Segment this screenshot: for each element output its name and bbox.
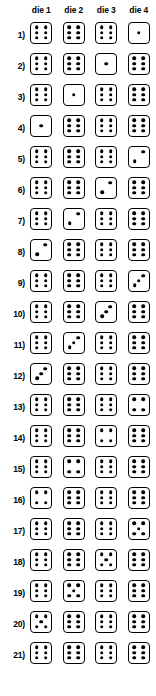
- die-pip: [133, 217, 137, 221]
- die-pip: [100, 651, 104, 655]
- die-face-6: [30, 425, 52, 447]
- die-pip: [44, 305, 48, 309]
- die-pip: [68, 367, 72, 371]
- die-pip: [100, 31, 104, 35]
- die-pip: [100, 124, 104, 128]
- dice-roll-table: die 1 die 2 die 3 die 4 1)2)3)4)5)6)7)8)…: [0, 0, 155, 670]
- die-pip: [141, 465, 145, 469]
- die-pip: [109, 274, 113, 278]
- row-number-label: 15): [0, 453, 25, 484]
- die-pip: [109, 346, 113, 350]
- die-pip: [35, 346, 39, 350]
- die-pip: [68, 243, 72, 247]
- die-cell: [90, 267, 123, 298]
- die-pip: [133, 439, 137, 443]
- table-row: 8): [0, 236, 155, 267]
- die-pip: [137, 527, 141, 531]
- die-pip: [109, 372, 113, 376]
- table-body: 1)2)3)4)5)6)7)8)9)10)11)12)13)14)15)16)1…: [0, 19, 155, 670]
- die-pip: [109, 119, 113, 123]
- die-pip: [133, 563, 137, 567]
- row-number-label: 3): [0, 81, 25, 112]
- die-face-5: [63, 580, 85, 602]
- die-pip: [109, 88, 113, 92]
- die-pip: [133, 160, 137, 164]
- die-pip: [100, 398, 104, 402]
- die-pip: [44, 31, 48, 35]
- table-header: die 1 die 2 die 3 die 4: [0, 0, 155, 19]
- die-pip: [68, 36, 72, 40]
- die-face-6: [128, 487, 150, 509]
- die-pip: [39, 620, 43, 624]
- row-number-label: 8): [0, 236, 25, 267]
- die-pip: [68, 57, 72, 61]
- die-pip: [141, 367, 145, 371]
- die-pip: [35, 470, 39, 474]
- die-pip: [109, 656, 113, 660]
- die-pip: [44, 470, 48, 474]
- die-pip: [133, 465, 137, 469]
- die-pip: [141, 336, 145, 340]
- die-pip: [35, 186, 39, 190]
- die-pip: [76, 181, 80, 185]
- die-pip: [68, 403, 72, 407]
- die-pip: [76, 615, 80, 619]
- die-pip: [141, 651, 145, 655]
- die-pip: [35, 563, 39, 567]
- die-pip: [76, 310, 80, 314]
- die-cell: [123, 422, 156, 453]
- die-pip: [100, 284, 104, 288]
- die-face-1: [30, 115, 52, 137]
- die-pip: [35, 491, 39, 495]
- row-number-label: 5): [0, 143, 25, 174]
- die-pip: [141, 625, 145, 629]
- die-cell: [25, 329, 58, 360]
- die-pip: [68, 222, 72, 226]
- table-row: 20): [0, 608, 155, 639]
- die-pip: [68, 434, 72, 438]
- die-pip: [44, 310, 48, 314]
- die-pip: [35, 62, 39, 66]
- die-pip: [35, 594, 39, 598]
- die-pip: [44, 532, 48, 536]
- die-pip: [141, 57, 145, 61]
- die-cell: [123, 143, 156, 174]
- die-cell: [58, 298, 91, 329]
- table-row: 17): [0, 515, 155, 546]
- die-pip: [100, 93, 104, 97]
- die-pip: [76, 57, 80, 61]
- row-number-label: 11): [0, 329, 25, 360]
- row-number-label: 18): [0, 546, 25, 577]
- die-pip: [76, 403, 80, 407]
- die-cell: [25, 577, 58, 608]
- table-row: 6): [0, 174, 155, 205]
- die-pip: [141, 460, 145, 464]
- die-pip: [141, 67, 145, 71]
- die-pip: [76, 522, 80, 526]
- die-pip: [44, 150, 48, 154]
- die-cell: [90, 50, 123, 81]
- die-pip: [109, 553, 113, 557]
- die-pip: [109, 496, 113, 500]
- die-pip: [68, 527, 72, 531]
- die-pip: [133, 501, 137, 505]
- table-row: 14): [0, 422, 155, 453]
- die-pip: [109, 470, 113, 474]
- die-pip: [133, 651, 137, 655]
- die-pip: [68, 346, 72, 350]
- table-row: 15): [0, 453, 155, 484]
- die-pip: [35, 460, 39, 464]
- die-pip: [133, 470, 137, 474]
- die-pip: [109, 651, 113, 655]
- column-header-die-4: die 4: [123, 0, 156, 19]
- die-cell: [25, 453, 58, 484]
- die-pip: [44, 594, 48, 598]
- die-pip: [68, 284, 72, 288]
- die-pip: [35, 222, 39, 226]
- die-cell: [123, 577, 156, 608]
- die-cell: [90, 360, 123, 391]
- die-pip: [68, 501, 72, 505]
- die-pip: [133, 119, 137, 123]
- die-pip: [133, 57, 137, 61]
- die-pip: [76, 243, 80, 247]
